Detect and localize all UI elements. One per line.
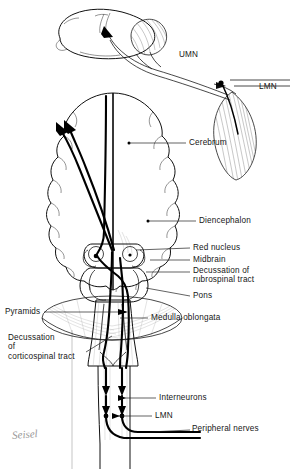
anatomy-illustration bbox=[0, 0, 290, 469]
label-cerebrum: Cerebrum bbox=[189, 138, 227, 147]
cerebellum-hatched bbox=[126, 17, 168, 69]
label-midbrain: Midbrain bbox=[193, 255, 226, 264]
label-lmn-cord: LMN bbox=[155, 411, 173, 420]
anatomy-figure: UMN LMN Cerebrum Diencephalon Red nucleu… bbox=[0, 0, 290, 469]
label-umn: UMN bbox=[179, 50, 198, 59]
label-lmn-muscle: LMN bbox=[259, 82, 277, 91]
label-interneurons: Interneurons bbox=[159, 393, 207, 402]
artist-signature: Seisel bbox=[12, 427, 38, 441]
label-medulla-oblongata: Medulla oblongata bbox=[151, 313, 220, 322]
label-pyramids: Pyramids bbox=[5, 307, 40, 316]
label-decussation-corticospinal: Decussation of corticospinal tract bbox=[8, 333, 75, 361]
motor-tract-pathways bbox=[56, 96, 200, 438]
striated-muscle bbox=[212, 84, 257, 182]
label-diencephalon: Diencephalon bbox=[199, 216, 251, 225]
label-decussation-rubrospinal: Decussation of rubrospinal tract bbox=[193, 266, 254, 285]
label-peripheral-nerves: Peripheral nerves bbox=[192, 424, 259, 433]
label-pons: Pons bbox=[193, 291, 212, 300]
label-red-nucleus: Red nucleus bbox=[193, 243, 240, 252]
synapse-arrow-right-1 bbox=[118, 386, 126, 396]
synapse-arrow-left-1 bbox=[102, 386, 110, 396]
umn-axon-pathway bbox=[101, 26, 230, 100]
